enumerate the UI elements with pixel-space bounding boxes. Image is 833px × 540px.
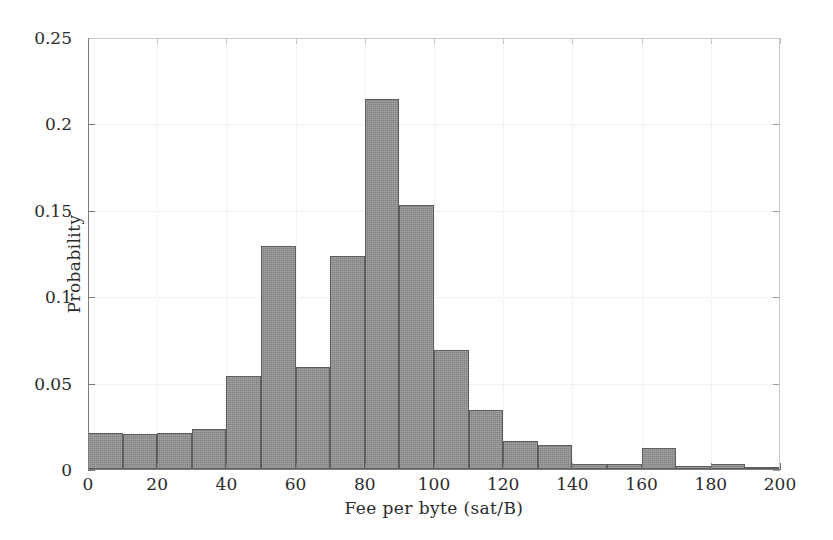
gridline-vertical — [572, 38, 574, 470]
x-axis-tick-label: 120 — [487, 474, 519, 494]
y-axis-tick — [88, 297, 95, 298]
histogram-bar — [157, 433, 192, 469]
y-axis-title: Probability — [64, 184, 84, 344]
histogram-bar — [503, 441, 538, 469]
x-axis-tick-label: 160 — [625, 474, 657, 494]
histogram-bar — [226, 376, 261, 469]
axis-line-left — [88, 38, 89, 470]
x-axis-tick-label: 200 — [764, 474, 796, 494]
x-axis-tick-label: 20 — [146, 474, 168, 494]
gridline-vertical — [642, 38, 644, 470]
y-axis-tick-label: 0.2 — [45, 114, 72, 134]
histogram-bar — [296, 367, 331, 469]
x-axis-tick-top — [780, 38, 781, 44]
y-axis-tick-label: 0.25 — [34, 28, 72, 48]
histogram-bar — [192, 429, 227, 469]
x-axis-tick — [780, 463, 781, 470]
y-axis-tick-right — [773, 470, 780, 471]
x-axis-tick-label: 180 — [695, 474, 727, 494]
x-axis-tick-label: 140 — [556, 474, 588, 494]
y-axis-tick-label: 0.05 — [34, 374, 72, 394]
x-axis-tick-label: 60 — [285, 474, 307, 494]
x-axis-tick-label: 100 — [418, 474, 450, 494]
y-axis-tick — [88, 211, 95, 212]
histogram-bar — [434, 350, 469, 469]
x-axis-tick-labels: 020406080100120140160180200 — [88, 474, 780, 500]
histogram-bar — [330, 256, 365, 469]
histogram-bar — [469, 410, 504, 469]
chart-figure: 00.050.10.150.20.25 Probability 02040608… — [0, 0, 833, 540]
histogram-bar — [365, 99, 400, 469]
axis-line-right — [779, 38, 780, 470]
axis-line-top — [88, 38, 780, 39]
gridline-vertical — [503, 38, 505, 470]
x-axis-tick-label: 80 — [354, 474, 376, 494]
x-axis-tick-label: 0 — [83, 474, 94, 494]
y-axis-tick — [88, 384, 95, 385]
histogram-bar — [123, 434, 158, 469]
histogram-bar — [88, 433, 123, 469]
axis-line-bottom — [88, 469, 780, 470]
histogram-bar — [642, 448, 677, 469]
histogram-bar — [261, 246, 296, 469]
gridline-vertical — [157, 38, 159, 470]
histogram-bar — [538, 445, 573, 469]
plot-area — [88, 38, 780, 470]
y-axis-tick — [88, 470, 95, 471]
x-axis-tick-label: 40 — [216, 474, 238, 494]
y-axis-tick-label: 0 — [61, 460, 72, 480]
x-axis-title: Fee per byte (sat/B) — [88, 498, 780, 518]
histogram-bar — [399, 205, 434, 469]
gridline-vertical — [711, 38, 713, 470]
y-axis-tick — [88, 124, 95, 125]
